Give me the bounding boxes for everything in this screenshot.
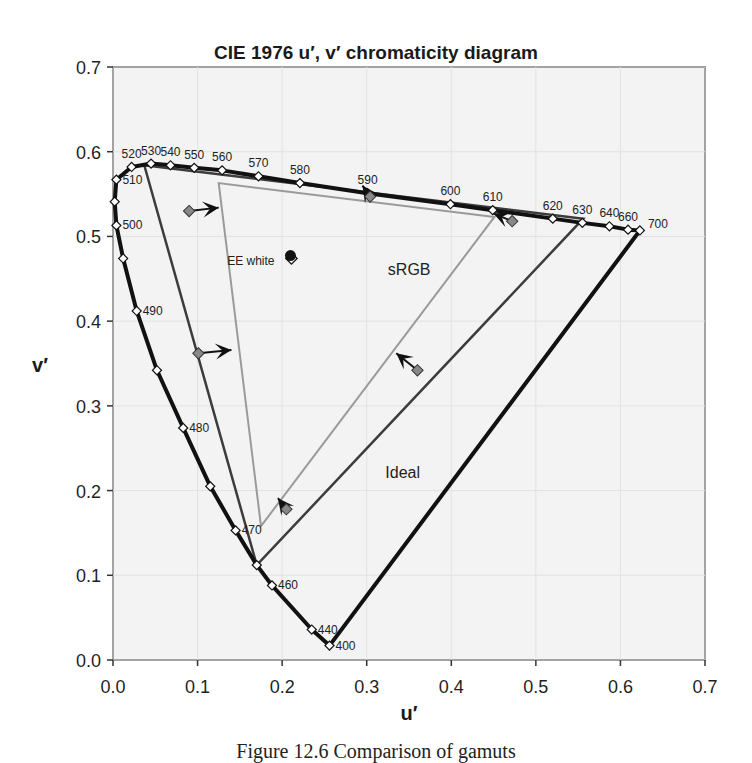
- wavelength-label: 580: [290, 163, 310, 177]
- annotation-ideal: Ideal: [385, 464, 420, 481]
- wavelength-label: 610: [483, 190, 503, 204]
- wavelength-label: 470: [242, 523, 262, 537]
- x-tick-label: 0.7: [692, 677, 717, 697]
- x-tick-label: 0.5: [523, 677, 548, 697]
- y-axis-label: v′: [32, 354, 48, 376]
- figure-caption: Figure 12.6 Comparison of gamuts: [0, 740, 752, 763]
- wavelength-label: 640: [599, 206, 619, 220]
- x-tick-label: 0.1: [185, 677, 210, 697]
- wavelength-label: 550: [184, 148, 204, 162]
- y-tick-label: 0.5: [76, 227, 101, 247]
- annotation-ee-white: EE white: [227, 254, 275, 268]
- y-tick-label: 0.3: [76, 397, 101, 417]
- y-tick-label: 0.0: [76, 651, 101, 671]
- wavelength-label: 540: [160, 145, 180, 159]
- wavelength-label: 560: [212, 150, 232, 164]
- y-tick-label: 0.1: [76, 566, 101, 586]
- wavelength-label: 570: [248, 156, 268, 170]
- wavelength-label: 660: [618, 210, 638, 224]
- x-tick-label: 0.6: [608, 677, 633, 697]
- wavelength-label: 510: [122, 173, 142, 187]
- x-tick-label: 0.3: [354, 677, 379, 697]
- wavelength-label: 440: [318, 623, 338, 637]
- wavelength-label: 700: [648, 217, 668, 231]
- wavelength-label: 530: [141, 144, 161, 158]
- wavelength-label: 600: [440, 184, 460, 198]
- wavelength-label: 490: [143, 304, 163, 318]
- wavelength-label: 400: [336, 639, 356, 653]
- x-tick-label: 0.0: [100, 677, 125, 697]
- y-tick-label: 0.2: [76, 482, 101, 502]
- wavelength-label: 620: [543, 199, 563, 213]
- wavelength-label: 590: [358, 173, 378, 187]
- wavelength-label: 480: [189, 421, 209, 435]
- y-tick-label: 0.4: [76, 312, 101, 332]
- y-tick-label: 0.6: [76, 143, 101, 163]
- d65-white-point: [285, 250, 296, 261]
- x-tick-label: 0.2: [270, 677, 295, 697]
- wavelength-label: 520: [122, 147, 142, 161]
- wavelength-label: 460: [278, 578, 298, 592]
- annotation-srgb: sRGB: [388, 261, 431, 278]
- y-tick-label: 0.7: [76, 58, 101, 78]
- x-axis-label: u′: [400, 702, 417, 724]
- x-tick-label: 0.4: [439, 677, 464, 697]
- wavelength-label: 630: [572, 203, 592, 217]
- wavelength-label: 500: [122, 218, 142, 232]
